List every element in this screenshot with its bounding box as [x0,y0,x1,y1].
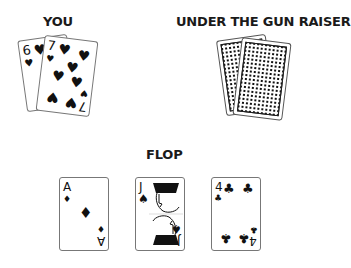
card-rank: 7 [77,100,87,113]
card-rank: A [97,235,105,247]
card-back-pattern [237,42,287,117]
club-icon: ♣ [214,192,222,204]
card-rank: J [177,235,181,247]
heart-icon: ♥ [51,69,65,82]
card-rank: 4 [249,235,257,247]
heart-icon: ♥ [58,43,72,56]
heart-icon: ♥ [45,52,54,65]
opponent-card-back [232,37,291,121]
heart-icon: ♥ [46,91,60,104]
card-rank: A [63,181,71,193]
you-label: YOU [43,14,73,29]
card-rank: 6 [22,44,32,57]
opponent-label: UNDER THE GUN RAISER [176,14,351,29]
diamond-icon: ♦ [79,207,92,219]
flop-card-ace-diamonds: A ♦ ♦ ♦ A [59,177,109,251]
heart-icon: ♥ [64,96,78,109]
flop-card-jack-spades: J ♠ ♠ J [135,177,185,251]
flop-card-four-clubs: 4 ♣ ♣ ♣ ♣ ♣ ♣ 4 [211,177,261,251]
club-icon: ♣ [242,183,254,195]
hole-card-seven-hearts: 7 ♥ ♥ ♥ ♥ ♥ ♥ ♥ ♥ 7 ♥ [36,35,99,117]
flop-label: FLOP [146,147,182,162]
club-icon: ♣ [220,232,232,244]
card-rank: 7 [47,39,57,52]
club-icon: ♣ [238,232,250,244]
heart-icon: ♥ [24,57,35,70]
heart-icon: ♥ [65,61,79,74]
heart-icon: ♥ [79,87,88,100]
spade-icon: ♠ [138,193,149,205]
diamond-icon: ♦ [63,193,71,205]
club-icon: ♣ [223,183,235,195]
